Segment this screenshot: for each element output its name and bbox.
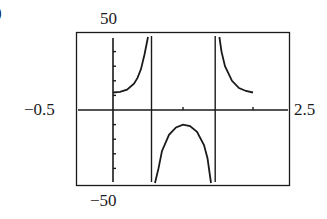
graph-window <box>0 0 327 219</box>
branch-left <box>113 37 148 93</box>
branch-middle <box>155 125 211 183</box>
branch-right <box>219 37 253 93</box>
axes <box>78 38 288 182</box>
